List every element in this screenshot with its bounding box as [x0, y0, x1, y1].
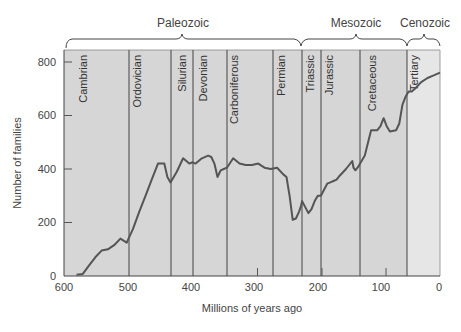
cenozoic-brace — [407, 34, 440, 46]
period-label-silurian: Silurian — [176, 55, 188, 92]
era-label-cenozoic: Cenozoic — [400, 16, 450, 30]
era-label-mesozoic: Mesozoic — [331, 16, 382, 30]
period-label-devonian: Devonian — [197, 55, 209, 101]
x-tick-label: 300 — [245, 281, 263, 293]
era-braces — [66, 34, 440, 48]
y-tick-label: 400 — [38, 163, 56, 175]
x-tick-label: 600 — [55, 281, 73, 293]
y-axis-title: Number of families — [11, 117, 23, 209]
period-label-jurassic: Jurassic — [323, 55, 335, 96]
mesozoic-brace — [301, 34, 407, 46]
x-tick-label: 400 — [182, 281, 200, 293]
x-tick-label: 100 — [372, 281, 390, 293]
x-tick-label: 0 — [436, 281, 442, 293]
era-label-paleozoic: Paleozoic — [157, 16, 209, 30]
x-tick-label: 200 — [309, 281, 327, 293]
period-label-cambrian: Cambrian — [77, 55, 89, 103]
x-axis-title: Millions of years ago — [202, 302, 302, 314]
y-tick-label: 800 — [38, 56, 56, 68]
period-label-permian: Permian — [275, 55, 287, 96]
x-tick-label: 500 — [119, 281, 137, 293]
period-label-triassic: Triassic — [304, 55, 316, 93]
y-tick-label: 600 — [38, 109, 56, 121]
period-label-cretaceous: Cretaceous — [366, 55, 378, 112]
fossil-diversity-chart: 0 200 400 600 800 600 500 400 300 200 10… — [0, 0, 461, 332]
y-tick-label: 200 — [38, 216, 56, 228]
period-label-ordovician: Ordovician — [131, 55, 143, 108]
paleozoic-brace — [66, 34, 301, 48]
period-label-carboniferous: Carboniferous — [228, 55, 240, 125]
